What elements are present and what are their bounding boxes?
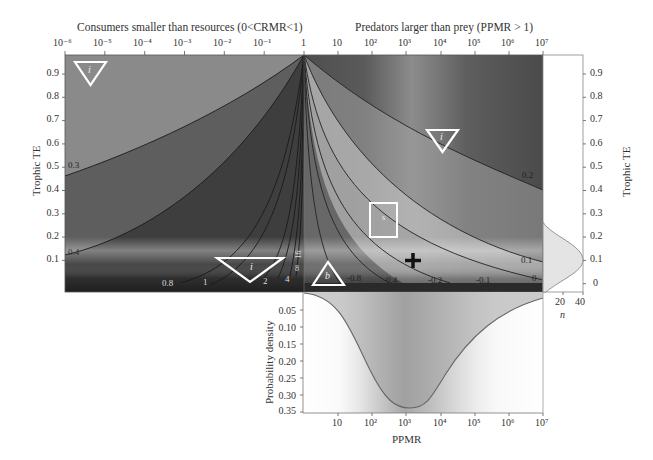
ytick-right: 0.5	[590, 160, 603, 171]
ytick-right: 0	[593, 277, 598, 288]
tick-top: 10⁵	[467, 37, 481, 48]
ppmr-tick: 10⁷	[535, 417, 549, 428]
marker-label-b: b	[325, 270, 330, 281]
contour-label: 0.2	[522, 170, 533, 180]
marker-label-i: i	[250, 261, 253, 272]
ytick: 0.1	[33, 253, 59, 264]
ytick: 0.7	[33, 113, 59, 124]
top-axis-ticks	[65, 51, 543, 55]
y-axis-label: Trophic TE	[30, 146, 42, 196]
n-axis-label: n	[560, 309, 565, 320]
ppmr-tick: 10³	[398, 417, 411, 428]
ppmr-tick: 10⁴	[433, 417, 447, 428]
tick-top: 10⁻²	[213, 37, 231, 48]
contour-label: 0.8	[162, 278, 173, 288]
contour-label: 4	[285, 274, 290, 284]
left-axis-ticks	[62, 74, 65, 260]
tick-top: 10³	[398, 37, 411, 48]
tick-top: 10⁻⁴	[133, 37, 152, 48]
ytick: 0.9	[33, 67, 59, 78]
tick-top: 10⁻⁶	[53, 37, 72, 48]
contour-label: 0.1	[521, 255, 532, 265]
ytick-right: 0.2	[590, 230, 603, 241]
contour-label: -0.2	[428, 275, 442, 285]
ppmr-tick: 10²	[364, 417, 377, 428]
contour-label: 0.4	[68, 247, 79, 257]
figure	[0, 0, 653, 460]
tick-top: 10²	[364, 37, 377, 48]
contour-label: 2	[263, 276, 268, 286]
pd-tick: 0.05	[270, 305, 296, 316]
contour-label: 0	[532, 273, 537, 283]
tick-top: 10	[332, 37, 342, 48]
ppmr-tick: 10⁵	[467, 417, 481, 428]
ytick: 0.8	[33, 90, 59, 101]
marker-label-i: i	[440, 131, 443, 142]
main-contour-plot	[65, 55, 543, 292]
tick-top: 10⁶	[501, 37, 515, 48]
n-tick: 40	[575, 296, 585, 307]
left-axis-title: Consumers smaller than resources (0<CRMR…	[77, 21, 303, 33]
tick-top: 10⁻⁵	[93, 37, 112, 48]
right-histogram-panel	[543, 55, 586, 295]
ppmr-tick: 10	[332, 417, 342, 428]
ytick-right: 0.3	[590, 207, 603, 218]
pd-tick: 0.35	[270, 405, 296, 416]
ppmr-axis-label: PPMR	[392, 433, 421, 445]
contour-label: -0.8	[347, 273, 361, 283]
tick-top: 10⁻³	[173, 37, 191, 48]
ytick: 0.2	[33, 230, 59, 241]
tick-top: 10⁷	[535, 37, 549, 48]
ppmr-tick: 10⁶	[501, 417, 515, 428]
contour-label: 1	[203, 277, 208, 287]
tick-top: 1	[301, 37, 306, 48]
ytick-right: 0.6	[590, 137, 603, 148]
contour-label: 0.3	[68, 160, 79, 170]
n-tick: 20	[555, 296, 565, 307]
ytick-right: 0.7	[590, 113, 603, 124]
ytick: 0.3	[33, 207, 59, 218]
ytick-right: 0.9	[590, 67, 603, 78]
contour-label: 8	[295, 264, 299, 273]
marker-label-i: i	[88, 64, 91, 75]
pd-axis-label: Probability density	[263, 321, 275, 404]
marker-label-s: s	[382, 213, 385, 222]
ytick-right: 0.1	[590, 253, 603, 264]
contour-label: -0.1	[476, 275, 490, 285]
ytick-right: 0.8	[590, 90, 603, 101]
ytick-right: 0.4	[590, 183, 603, 194]
tick-top: 10⁻¹	[253, 37, 271, 48]
contour-label: 16	[294, 251, 303, 259]
y-axis-label-right: Trophic TE	[620, 147, 632, 197]
tick-top: 10⁴	[433, 37, 447, 48]
right-axis-title: Predators larger than prey (PPMR > 1)	[355, 21, 533, 33]
contour-label: -0.4	[383, 275, 397, 285]
bottom-density-panel	[300, 292, 543, 416]
